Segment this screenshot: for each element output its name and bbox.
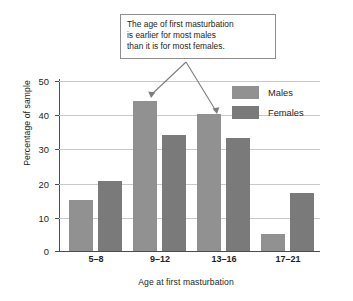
- bar-females-17-21: [290, 193, 314, 251]
- bar-females-9-12: [162, 135, 186, 251]
- y-axis-title: Percentage of sample: [22, 48, 32, 198]
- callout-line-3: than it is for most females.: [127, 41, 269, 52]
- ytick-mark-10: 10: [55, 218, 59, 219]
- y-axis-line: [59, 79, 60, 252]
- ytick-mark-50: 50: [55, 81, 59, 82]
- chart-legend: Males Females: [232, 86, 304, 126]
- bar-group-9-12: 9–12: [129, 81, 191, 251]
- ytick-mark-30: 30: [55, 149, 59, 150]
- ytick-label-10: 10: [39, 212, 49, 223]
- ytick-label-30: 30: [39, 144, 49, 155]
- legend-item-females: Females: [232, 106, 304, 119]
- legend-swatch-females: [232, 106, 259, 119]
- callout-annotation: The age of first masturbation is earlier…: [120, 14, 276, 59]
- callout-line-1: The age of first masturbation: [127, 19, 269, 30]
- bar-males-17-21: [261, 234, 285, 251]
- xtick-label-17-21: 17–21: [257, 254, 319, 264]
- ytick-mark-20: 20: [55, 184, 59, 185]
- xtick-label-9-12: 9–12: [129, 254, 191, 264]
- bar-females-13-16: [226, 138, 250, 251]
- ytick-label-20: 20: [39, 178, 49, 189]
- legend-label-females: Females: [268, 108, 304, 118]
- bar-males-5-8: [69, 200, 93, 251]
- callout-line-2: is earlier for most males: [127, 30, 269, 41]
- x-axis-title: Age at first masturbation: [52, 277, 320, 287]
- bar-males-13-16: [197, 114, 221, 251]
- bar-females-5-8: [98, 181, 122, 251]
- legend-swatch-males: [232, 86, 259, 99]
- ytick-mark-40: 40: [55, 115, 59, 116]
- bar-chart-figure: The age of first masturbation is earlier…: [0, 0, 353, 301]
- ytick-label-50: 50: [39, 76, 49, 87]
- ytick-label-40: 40: [39, 110, 49, 121]
- xtick-label-13-16: 13–16: [193, 254, 255, 264]
- x-axis-line: [59, 251, 320, 252]
- ytick-mark-0: 0: [55, 251, 59, 252]
- bar-group-5-8: 5–8: [65, 81, 127, 251]
- bar-males-9-12: [133, 101, 157, 252]
- legend-item-males: Males: [232, 86, 304, 99]
- legend-label-males: Males: [268, 88, 293, 98]
- ytick-label-0: 0: [44, 246, 49, 257]
- xtick-label-5-8: 5–8: [65, 254, 127, 264]
